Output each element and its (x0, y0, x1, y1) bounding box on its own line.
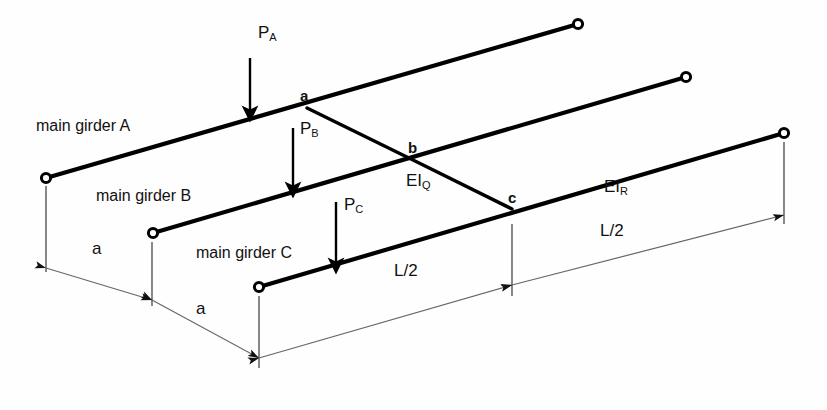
load-arrows-group (250, 58, 336, 266)
dimension-line-a-right (152, 300, 259, 358)
load-label-pb: PB (300, 120, 319, 137)
stiffness-label-eiq: EIQ (406, 172, 431, 189)
dimension-line-a-left (46, 268, 152, 300)
load-label-pc: PC (344, 196, 363, 213)
stiffness-label-eir-main: EI (604, 177, 620, 196)
load-label-pa: PA (258, 24, 277, 41)
load-label-pb-main: P (300, 119, 311, 138)
stiffness-label-eir: EIR (604, 178, 628, 195)
diagram-canvas: main girder A main girder B main girder … (0, 0, 827, 410)
girder-label-c: main girder C (196, 245, 292, 261)
stiffness-label-eir-sub: R (620, 185, 628, 197)
dimension-line-L-half-left (259, 285, 512, 358)
main-girder-c (259, 133, 784, 287)
dimension-line-L-half-right (512, 215, 784, 285)
dimension-label-a-left: a (92, 240, 101, 257)
dimension-label-a-right: a (196, 300, 205, 317)
main-girder-b (153, 77, 686, 233)
stiffness-label-eiq-main: EI (406, 171, 422, 190)
cross-girder-path (307, 108, 512, 209)
girder-label-b: main girder B (96, 188, 191, 204)
main-girder-a (46, 24, 578, 178)
load-label-pc-sub: C (355, 203, 363, 215)
node-label-c: c (508, 190, 516, 205)
dimension-label-l-half-left: L/2 (394, 262, 418, 279)
stiffness-label-eiq-sub: Q (422, 179, 431, 191)
node-label-a: a (300, 88, 308, 103)
cross-girder-group (307, 108, 512, 209)
dimension-label-l-half-right: L/2 (600, 222, 624, 239)
pin-support-b-start (148, 228, 157, 237)
pin-support-c-start (254, 282, 263, 291)
diagram-svg (0, 0, 827, 410)
load-label-pc-main: P (344, 195, 355, 214)
pin-support-c-end (779, 128, 788, 137)
pin-support-a-end (573, 19, 582, 28)
load-label-pb-sub: B (311, 127, 318, 139)
girder-label-a: main girder A (36, 118, 130, 134)
load-label-pa-sub: A (269, 31, 276, 43)
pin-support-a-start (41, 173, 50, 182)
node-label-b: b (408, 140, 417, 155)
load-label-pa-main: P (258, 23, 269, 42)
pin-support-b-end (681, 72, 690, 81)
